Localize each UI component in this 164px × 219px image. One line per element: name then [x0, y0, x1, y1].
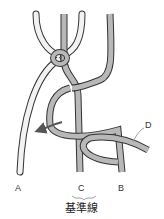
base-line-caption: 基準線 [65, 203, 98, 214]
label-d: D [145, 121, 152, 130]
label-a: A [15, 184, 21, 193]
label-c: C [78, 184, 85, 193]
base-line-bracket [72, 196, 96, 200]
cord-d [83, 137, 148, 162]
cord-a [20, 14, 82, 172]
label-b: B [118, 184, 124, 193]
label-d-leader [133, 128, 144, 142]
